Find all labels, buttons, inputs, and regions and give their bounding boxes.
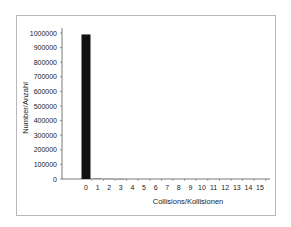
y-tick-label: 600000 xyxy=(34,88,57,95)
x-tick-label: 7 xyxy=(165,184,169,191)
bar-2 xyxy=(105,179,114,180)
x-tick-label: 13 xyxy=(233,184,241,191)
bar-chart: 0100000200000300000400000500000600000700… xyxy=(0,0,291,227)
x-tick-label: 4 xyxy=(130,184,134,191)
x-tick-label: 2 xyxy=(107,184,111,191)
x-tick-label: 5 xyxy=(142,184,146,191)
y-tick-label: 500000 xyxy=(34,103,57,110)
y-tick-label: 200000 xyxy=(34,146,57,153)
x-tick-label: 10 xyxy=(198,184,206,191)
x-tick-label: 15 xyxy=(256,184,264,191)
y-tick-label: 1000000 xyxy=(30,30,57,37)
y-tick-label: 400000 xyxy=(34,117,57,124)
y-tick-label: 700000 xyxy=(34,73,57,80)
x-tick-label: 9 xyxy=(188,184,192,191)
y-tick-label: 300000 xyxy=(34,132,57,139)
bar-0 xyxy=(82,34,91,179)
y-tick-label: 900000 xyxy=(34,44,57,51)
x-tick-label: 1 xyxy=(96,184,100,191)
x-tick-label: 11 xyxy=(210,184,217,191)
x-tick-label: 6 xyxy=(154,184,158,191)
y-tick-label: 800000 xyxy=(34,59,57,66)
x-tick-label: 0 xyxy=(84,184,88,191)
x-tick-label: 12 xyxy=(221,184,229,191)
x-tick-label: 3 xyxy=(119,184,123,191)
y-tick-label: 0 xyxy=(53,176,57,183)
x-tick-label: 14 xyxy=(245,184,253,191)
x-axis-label: Collisions/Kollisionen xyxy=(153,197,223,206)
x-tick-label: 8 xyxy=(177,184,181,191)
y-tick-label: 100000 xyxy=(34,161,57,168)
bar-3 xyxy=(116,179,125,180)
y-axis-label: Number/Anzahl xyxy=(21,82,30,134)
bar-1 xyxy=(93,178,102,179)
